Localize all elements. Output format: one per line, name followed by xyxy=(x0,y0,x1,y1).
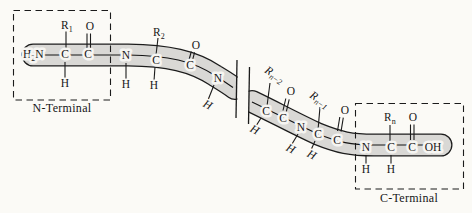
atom-alpha-carbon-n2: C xyxy=(262,105,270,117)
atom-alpha-carbon-1: C xyxy=(61,48,69,60)
amino-h: H xyxy=(23,48,31,60)
oxygen-4: O xyxy=(341,104,349,116)
amino-n: N xyxy=(35,48,44,60)
atom-peptide-nitrogen-1: N xyxy=(122,49,131,61)
c-terminal-label: C-Terminal xyxy=(380,191,439,205)
oxygen-3: O xyxy=(287,85,295,97)
hydrogen-8: H xyxy=(362,163,370,175)
atom-carbonyl-carbon-n2: C xyxy=(279,112,287,124)
polypeptide-chain-diagram: H2N C C N C C N C C N C C N C C OH R1 R2… xyxy=(0,0,472,213)
atom-carbonyl-carbon-2: C xyxy=(186,59,194,71)
atom-peptide-nitrogen-2: N xyxy=(214,72,223,84)
atom-peptide-nitrogen-n1: N xyxy=(297,121,306,133)
atom-carbonyl-carbon-1: C xyxy=(84,48,92,60)
rn-subscript: n xyxy=(392,117,396,126)
atom-alpha-carbon-n1: C xyxy=(314,128,322,140)
oxygen-5: O xyxy=(409,111,417,123)
r2-subscript: 2 xyxy=(161,32,165,41)
hydrogen-2: H xyxy=(122,78,130,90)
hydrogen-1: H xyxy=(61,77,69,89)
atom-peptide-nitrogen-n: N xyxy=(362,141,371,153)
break-gap xyxy=(243,56,244,127)
atom-hydroxyl: OH xyxy=(425,141,442,153)
r1-subscript: 1 xyxy=(69,25,73,34)
atom-carbonyl-carbon-n1: C xyxy=(333,134,341,146)
atom-alpha-carbon-2: C xyxy=(152,54,160,66)
n-terminal-label: N-Terminal xyxy=(33,101,92,115)
hydrogen-3: H xyxy=(150,79,158,91)
oxygen-1: O xyxy=(86,20,94,32)
atom-alpha-carbon-n: C xyxy=(387,141,395,153)
oxygen-2: O xyxy=(192,39,200,51)
hydrogen-9: H xyxy=(387,163,395,175)
atom-carbonyl-carbon-n: C xyxy=(408,141,416,153)
